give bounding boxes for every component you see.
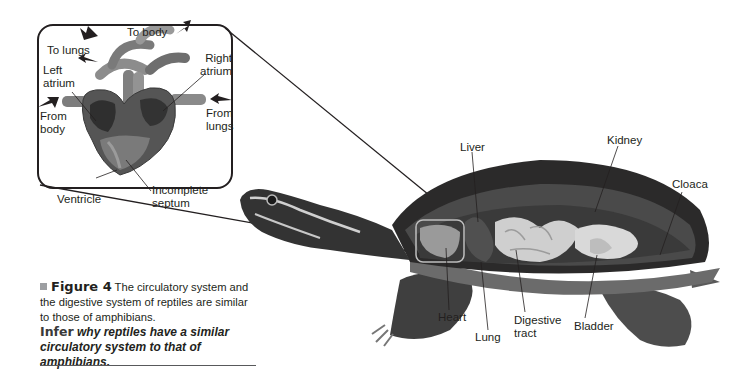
label-from-body-line1: From bbox=[40, 110, 67, 123]
label-kidney: Kidney bbox=[607, 134, 642, 147]
label-from-lungs: From lungs bbox=[206, 107, 234, 133]
label-right-atrium-line2: atrium bbox=[196, 65, 232, 78]
figure-caption: Figure 4 The circulatory system and the … bbox=[40, 279, 258, 325]
caption-divider bbox=[40, 365, 256, 366]
label-digestive-tract: Digestive tract bbox=[514, 314, 561, 340]
label-ventricle: Ventricle bbox=[57, 193, 101, 206]
label-left-atrium-line2: atrium bbox=[43, 77, 75, 90]
label-from-body-line2: body bbox=[40, 123, 67, 136]
label-left-atrium-line1: Left bbox=[43, 64, 75, 77]
label-from-lungs-line2: lungs bbox=[206, 120, 234, 133]
infer-question: Infer why reptiles have a similar circul… bbox=[40, 324, 258, 370]
label-bladder: Bladder bbox=[574, 320, 614, 333]
label-incomplete-septum-line2: septum bbox=[152, 197, 208, 210]
label-right-atrium-line1: Right bbox=[196, 52, 232, 65]
label-to-lungs: To lungs bbox=[47, 44, 90, 57]
infer-keyword: Infer bbox=[40, 324, 74, 339]
figure-number: Figure 4 bbox=[51, 279, 112, 294]
turtle-illustration bbox=[240, 146, 720, 347]
label-from-body: From body bbox=[40, 110, 67, 136]
label-from-lungs-line1: From bbox=[206, 107, 234, 120]
turtle-eye bbox=[267, 195, 277, 205]
label-lung: Lung bbox=[475, 331, 501, 344]
label-incomplete-septum: Incomplete septum bbox=[152, 184, 208, 210]
label-right-atrium: Right atrium bbox=[196, 52, 232, 78]
label-digestive-tract-line1: Digestive bbox=[514, 314, 561, 327]
label-incomplete-septum-line1: Incomplete bbox=[152, 184, 208, 197]
label-heart: Heart bbox=[438, 311, 466, 324]
label-left-atrium: Left atrium bbox=[43, 64, 75, 90]
label-digestive-tract-line2: tract bbox=[514, 327, 561, 340]
label-cloaca: Cloaca bbox=[672, 178, 708, 191]
label-liver: Liver bbox=[460, 141, 485, 154]
caption-bullet-icon bbox=[40, 283, 47, 290]
label-to-body: To body bbox=[127, 26, 167, 39]
